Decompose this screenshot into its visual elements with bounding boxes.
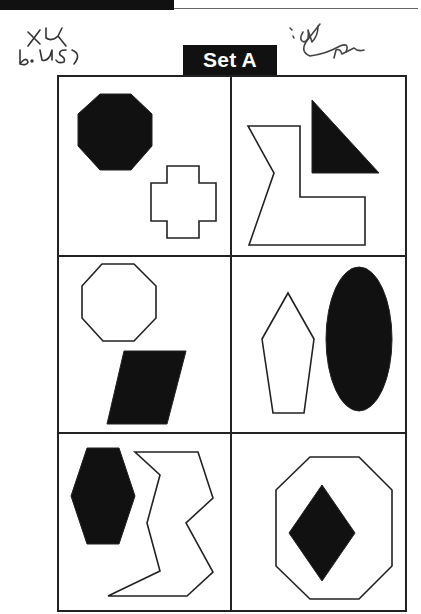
outline-cross-icon: [151, 166, 216, 238]
grid-cell-r2c1: [82, 264, 186, 424]
grid-cell-r3c1: [71, 448, 213, 596]
outline-pentagon-icon: [262, 293, 314, 413]
grid-cell-r3c2: [276, 457, 392, 599]
grid-cell-r1c1: [78, 94, 216, 238]
filled-diamond-icon: [289, 485, 355, 581]
grid-cell-r1c2: [248, 100, 379, 245]
filled-hexagon-icon: [71, 448, 135, 544]
filled-parallelogram-icon: [107, 351, 186, 424]
shape-grid: [0, 0, 421, 614]
filled-ellipse-icon: [326, 267, 392, 411]
filled-octagon-icon: [78, 94, 152, 170]
outline-octagon-icon: [82, 264, 156, 341]
filled-right-triangle-icon: [312, 100, 379, 173]
grid-cell-r2c2: [262, 267, 392, 413]
